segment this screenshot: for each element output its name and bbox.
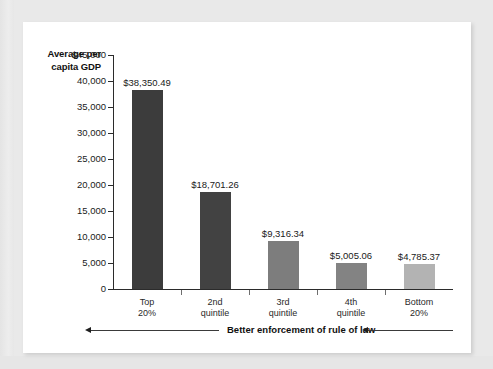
y-axis-tick-label: 30,000	[46, 128, 106, 138]
y-axis-tick-mark	[108, 133, 113, 134]
bar-value-label: $4,785.37	[379, 251, 459, 262]
x-axis-category-label: Top20%	[113, 297, 181, 319]
y-axis-tick-label: 20,000	[46, 180, 106, 190]
y-axis-tick-labels: $45,00040,00035,00030,00025,00020,00015,…	[43, 22, 106, 353]
bar	[336, 263, 367, 289]
x-axis-category-line-1: Bottom	[405, 297, 434, 307]
x-axis-tick-mark	[181, 290, 182, 295]
x-axis-category-line-2: 20%	[410, 308, 428, 318]
annotation-arrowhead-left	[85, 327, 91, 333]
figure-root: Average per capita GDP $45,00040,00035,0…	[0, 0, 493, 369]
y-axis-tick-mark	[108, 237, 113, 238]
y-axis-tick-mark	[108, 185, 113, 186]
page-background-bottom-band	[0, 356, 493, 369]
bar	[268, 241, 299, 289]
y-axis-tick-mark	[108, 107, 113, 108]
y-axis-tick-mark	[108, 81, 113, 82]
x-axis-category-line-2: quintile	[337, 308, 366, 318]
y-axis-tick-label: 40,000	[46, 76, 106, 86]
y-axis-tick-mark	[108, 263, 113, 264]
y-axis-tick-label: 0	[46, 284, 106, 294]
x-axis-annotation: Better enforcement of rule of law	[81, 324, 453, 338]
bar	[200, 192, 231, 289]
x-axis-category-label: 2ndquintile	[181, 297, 249, 319]
annotation-label: Better enforcement of rule of law	[227, 324, 375, 336]
x-axis-category-line-1: 2nd	[207, 297, 222, 307]
x-axis-tick-mark	[317, 290, 318, 295]
bar	[404, 264, 435, 289]
y-axis-tick-label: 15,000	[46, 206, 106, 216]
y-axis-tick-mark	[108, 159, 113, 160]
y-axis-tick-mark	[108, 55, 113, 56]
x-axis-category-line-1: 4th	[345, 297, 358, 307]
x-axis-tick-mark	[385, 290, 386, 295]
y-axis-tick-label: 5,000	[46, 258, 106, 268]
chart-panel: Average per capita GDP $45,00040,00035,0…	[23, 22, 471, 353]
y-axis-tick-label: $45,000	[46, 50, 106, 60]
y-axis-tick-label: 25,000	[46, 154, 106, 164]
y-axis-tick-mark	[108, 289, 113, 290]
annotation-line-left	[91, 330, 219, 331]
x-axis-category-line-1: 3rd	[276, 297, 289, 307]
annotation-line-right	[368, 330, 453, 331]
x-axis-category-line-1: Top	[140, 297, 155, 307]
x-axis-category-line-2: quintile	[201, 308, 230, 318]
bar-value-label: $38,350.49	[107, 77, 187, 88]
x-axis-category-line-2: quintile	[269, 308, 298, 318]
x-axis-category-label: Bottom20%	[385, 297, 453, 319]
x-axis-category-label: 3rdquintile	[249, 297, 317, 319]
y-axis-tick-mark	[108, 211, 113, 212]
plot-area: Average per capita GDP $45,00040,00035,0…	[23, 22, 471, 353]
x-axis-category-label: 4thquintile	[317, 297, 385, 319]
bar-value-label: $18,701.26	[175, 179, 255, 190]
y-axis-tick-label: 35,000	[46, 102, 106, 112]
x-axis-tick-mark	[249, 290, 250, 295]
bar-value-label: $9,316.34	[243, 228, 323, 239]
x-axis-line	[113, 289, 453, 290]
page-background-left-band	[0, 0, 14, 369]
y-axis-tick-label: 10,000	[46, 232, 106, 242]
x-axis-category-line-2: 20%	[138, 308, 156, 318]
bar	[132, 90, 163, 289]
